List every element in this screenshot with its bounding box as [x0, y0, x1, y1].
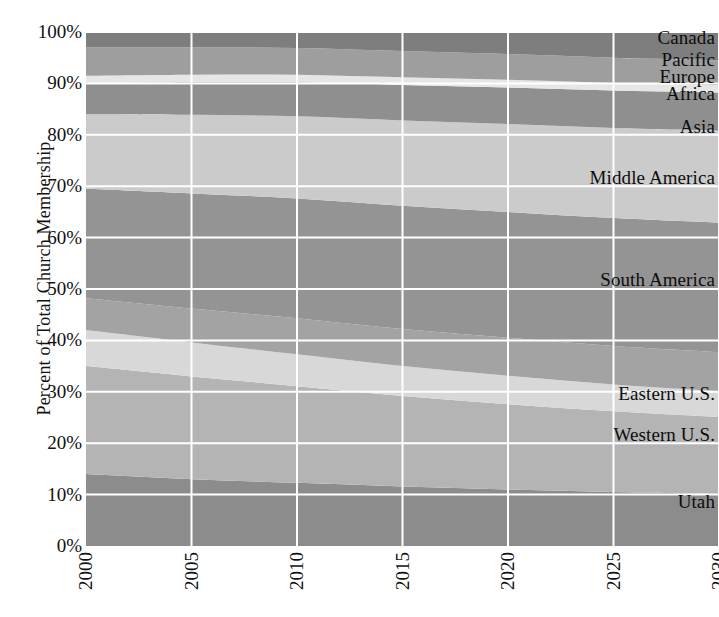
x-tick-label-text: 2025 — [603, 552, 625, 590]
x-tick-label-text: 2020 — [497, 552, 519, 590]
x-tick-label-text: 2015 — [392, 552, 414, 590]
x-tick-label-text: 2000 — [75, 552, 97, 590]
x-tick-label-text: 2005 — [181, 552, 203, 590]
x-tick-label-text: 2030 — [708, 552, 719, 590]
x-tick-label-text: 2010 — [286, 552, 308, 590]
stacked-area-chart: Percent of Total Church Membership 0%10%… — [0, 0, 719, 617]
x-axis-tick-labels: 2000200520102015202020252030 — [0, 0, 719, 617]
